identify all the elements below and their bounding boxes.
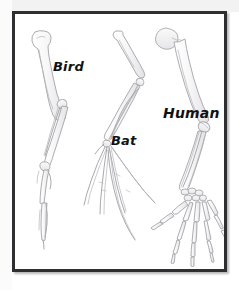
specimen-label-bat: Bat [111, 133, 137, 148]
figure-root: .bn { fill: url(#boneShade); stroke: #a3… [0, 0, 239, 290]
outer-margin-left [0, 0, 12, 290]
specimen-label-bird: Bird [53, 59, 84, 74]
human-arm-skeleton [151, 28, 224, 267]
human-carpals [181, 188, 207, 201]
diagram-frame: .bn { fill: url(#boneShade); stroke: #a3… [12, 11, 227, 272]
diagram-canvas: .bn { fill: url(#boneShade); stroke: #a3… [15, 14, 224, 269]
specimen-label-human: Human [163, 105, 220, 121]
